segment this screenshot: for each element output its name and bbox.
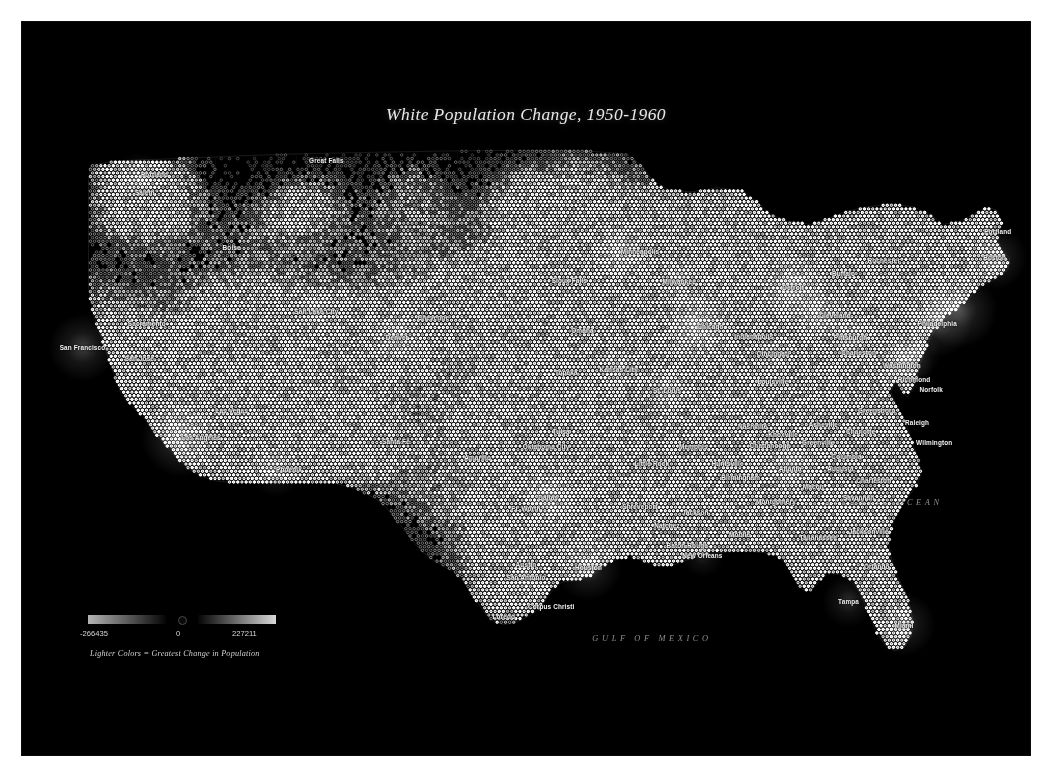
legend-gradient-bars bbox=[88, 614, 278, 626]
legend: -266435 0 227211 Lighter Colors = Greate… bbox=[80, 614, 340, 658]
map-stage: White Population Change, 1950-1960 ATLAN… bbox=[22, 22, 1030, 755]
page-root: White Population Change, 1950-1960 ATLAN… bbox=[0, 0, 1049, 778]
legend-positive-gradient bbox=[198, 615, 276, 624]
legend-zero-value: 0 bbox=[176, 629, 180, 638]
legend-tick-labels: -266435 0 227211 bbox=[80, 629, 290, 643]
legend-max-value: 227211 bbox=[232, 629, 257, 638]
legend-zero-marker bbox=[178, 616, 187, 625]
legend-caption: Lighter Colors = Greatest Change in Popu… bbox=[90, 649, 340, 658]
legend-min-value: -266435 bbox=[80, 629, 108, 638]
map-panel: White Population Change, 1950-1960 ATLAN… bbox=[22, 22, 1030, 755]
legend-negative-gradient bbox=[88, 615, 166, 624]
